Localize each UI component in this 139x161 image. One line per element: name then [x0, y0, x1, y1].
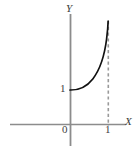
math-graph-figure: Y X 0 1 1 [0, 0, 139, 161]
x-axis-tick-label-1: 1 [105, 124, 111, 135]
x-axis-label: X [125, 116, 132, 127]
origin-label: 0 [62, 124, 68, 135]
graph-canvas [0, 0, 139, 161]
y-axis-tick-label-1: 1 [60, 83, 66, 94]
function-curve [70, 21, 108, 90]
y-axis-label: Y [66, 3, 72, 14]
